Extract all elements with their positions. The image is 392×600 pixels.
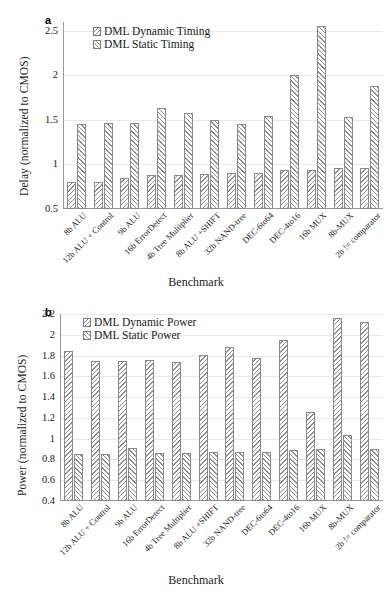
bar-static: [74, 454, 83, 501]
bar-static: [209, 452, 218, 501]
y-tick-label: 1.8: [15, 351, 55, 362]
y-tick-label: 0.6: [15, 475, 55, 486]
bar-dynamic: [280, 170, 289, 209]
bar-static: [235, 452, 244, 501]
gridline: [63, 120, 383, 121]
bar-dynamic: [200, 174, 209, 209]
legend-swatch-static-icon: [93, 40, 101, 49]
bar-static: [317, 26, 326, 209]
bar-static: [370, 86, 379, 209]
bar-static: [343, 435, 352, 501]
legend-item-dml-static-timing: DML Static Timing: [93, 38, 210, 50]
bar-dynamic: [199, 355, 208, 501]
bar-static: [104, 123, 113, 209]
legend-swatch-dynamic-icon: [83, 318, 91, 327]
bar-static: [210, 120, 219, 209]
bar-static: [184, 113, 193, 209]
bar-static: [77, 124, 86, 209]
y-tick-label: 1.2: [15, 413, 55, 424]
y-tick-label: 1: [15, 434, 55, 445]
bar-dynamic: [306, 412, 315, 501]
y-tick-label: 1.5: [18, 115, 58, 126]
legend-item-dml-static-power: DML Static Power: [83, 329, 196, 341]
y-tick-label: 2: [18, 70, 58, 81]
bar-dynamic: [172, 362, 181, 501]
bar-dynamic: [254, 173, 263, 209]
legend-label-dynamic: DML Dynamic Timing: [104, 25, 210, 37]
bar-dynamic: [334, 168, 343, 209]
bar-dynamic: [91, 361, 100, 501]
gridline: [63, 75, 383, 76]
bar-dynamic: [118, 361, 127, 501]
bar-dynamic: [147, 175, 156, 209]
bar-static: [370, 449, 379, 501]
bar-dynamic: [67, 182, 76, 209]
bar-static: [290, 75, 299, 209]
y-tick-label: 1: [18, 159, 58, 170]
bar-dynamic: [64, 351, 73, 501]
bar-dynamic: [307, 170, 316, 209]
panel-a-legend: DML Dynamic Timing DML Static Timing: [93, 25, 210, 51]
panel-a-x-axis-title: Benchmark: [0, 275, 392, 290]
bar-static: [316, 449, 325, 501]
y-axis-line: [63, 22, 64, 209]
y-axis-line: [60, 314, 61, 501]
bar-dynamic: [225, 347, 234, 501]
y-tick-label: 0.8: [15, 454, 55, 465]
bar-dynamic: [227, 173, 236, 210]
bar-static: [101, 454, 110, 501]
y-tick-label: 2.5: [18, 26, 58, 37]
y-tick-label: 2.2: [15, 309, 55, 320]
legend-swatch-static-icon: [83, 331, 91, 340]
bar-dynamic: [120, 178, 129, 209]
y-tick-label: 2: [15, 330, 55, 341]
panel-b-x-axis-title: Benchmark: [0, 573, 392, 588]
panel-b-legend: DML Dynamic Power DML Static Power: [83, 316, 196, 342]
panel-a-delay-chart: a Delay (normalized to CMOS) 0.511.522.5…: [0, 0, 392, 296]
bar-static: [155, 453, 164, 501]
legend-item-dml-dynamic-power: DML Dynamic Power: [83, 316, 196, 328]
bar-static: [264, 116, 273, 209]
legend-label-dynamic: DML Dynamic Power: [94, 316, 196, 328]
bar-static: [182, 453, 191, 501]
bar-dynamic: [252, 358, 261, 501]
panel-b-power-chart: b Power (normalized to CMOS) 0.40.60.811…: [0, 296, 392, 600]
bar-dynamic: [94, 182, 103, 209]
bar-static: [237, 124, 246, 209]
legend-swatch-dynamic-icon: [93, 27, 101, 36]
legend-label-static: DML Static Power: [94, 329, 180, 341]
bar-static: [130, 123, 139, 209]
bar-dynamic: [174, 175, 183, 209]
bar-dynamic: [333, 318, 342, 501]
bar-static: [262, 452, 271, 501]
bar-static: [289, 450, 298, 501]
bar-static: [344, 117, 353, 209]
bar-static: [157, 108, 166, 209]
y-tick-label: 1.6: [15, 371, 55, 382]
y-tick-label: 1.4: [15, 392, 55, 403]
bar-dynamic: [360, 168, 369, 209]
bar-dynamic: [279, 340, 288, 501]
legend-label-static: DML Static Timing: [104, 38, 194, 50]
bar-dynamic: [360, 322, 369, 501]
legend-item-dml-dynamic-timing: DML Dynamic Timing: [93, 25, 210, 37]
panel-b-plot-area: 0.40.60.811.21.41.61.822.2: [60, 314, 383, 501]
gridline: [60, 314, 383, 315]
bar-static: [128, 448, 137, 501]
bar-dynamic: [145, 360, 154, 501]
